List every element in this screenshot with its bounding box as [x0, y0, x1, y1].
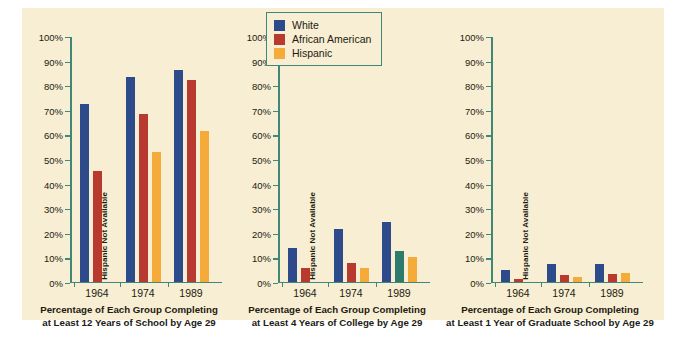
- legend-label: Hispanic: [292, 46, 332, 60]
- y-axis-tick-label: 0%: [257, 278, 271, 289]
- legend-swatch-icon: [274, 34, 285, 45]
- legend-label: African American: [292, 32, 371, 46]
- chart-caption-line1: Percentage of Each Group Completing: [230, 304, 444, 317]
- y-axis-tick-label: 10%: [44, 253, 63, 264]
- y-axis-tick-label: 40%: [465, 179, 484, 190]
- bar: [152, 152, 161, 281]
- y-axis-tick-label: 20%: [44, 228, 63, 239]
- y-axis-tick-label: 80%: [44, 81, 63, 92]
- legend-swatch-icon: [274, 48, 285, 59]
- x-axis-tick: [589, 283, 590, 287]
- bar: [382, 222, 391, 281]
- y-axis-tick-label: 20%: [465, 228, 484, 239]
- y-axis-tick: [486, 185, 491, 186]
- x-axis-category-label: 1989: [376, 287, 422, 299]
- bar: [621, 273, 630, 282]
- y-axis-tick: [65, 234, 70, 235]
- x-axis-line: [278, 282, 430, 284]
- bar: [187, 80, 196, 282]
- y-axis-tick-label: 50%: [465, 155, 484, 166]
- bar: [608, 274, 617, 281]
- hispanic-not-available-note: Hispanic Not Available: [521, 192, 530, 280]
- y-axis-tick: [486, 160, 491, 161]
- bar: [174, 70, 183, 282]
- plot-area: 100%90%80%70%60%50%40%30%20%10%0%Hispani…: [278, 37, 430, 283]
- x-axis-category-label: 1964: [282, 287, 328, 299]
- y-axis-line: [278, 37, 280, 283]
- x-axis-category-label: 1964: [74, 287, 120, 299]
- y-axis-tick: [273, 209, 278, 210]
- y-axis-tick-label: 30%: [44, 204, 63, 215]
- y-axis-tick-label: 40%: [252, 179, 271, 190]
- y-axis-tick-label: 0%: [49, 278, 63, 289]
- bar-stack: [80, 36, 102, 282]
- y-axis-tick-label: 70%: [465, 105, 484, 116]
- x-axis-tick: [541, 283, 542, 287]
- hispanic-not-available-note: Hispanic Not Available: [100, 192, 109, 280]
- bar: [408, 257, 417, 282]
- y-axis-tick: [273, 283, 278, 284]
- x-axis-tick: [328, 283, 329, 287]
- y-axis-tick: [65, 62, 70, 63]
- hispanic-not-available-note: Hispanic Not Available: [308, 192, 317, 280]
- y-axis-tick: [486, 209, 491, 210]
- y-axis-tick-label: 80%: [465, 81, 484, 92]
- bar: [395, 251, 404, 282]
- y-axis-tick-label: 30%: [465, 204, 484, 215]
- y-axis-tick: [65, 283, 70, 284]
- y-axis-tick-label: 70%: [44, 105, 63, 116]
- legend-swatch-icon: [274, 20, 285, 31]
- y-axis-tick-label: 20%: [252, 228, 271, 239]
- y-axis-tick: [273, 185, 278, 186]
- legend: WhiteAfrican AmericanHispanic: [266, 12, 382, 66]
- y-axis-line: [70, 37, 72, 283]
- bar: [573, 277, 582, 282]
- chart-caption: Percentage of Each Group Completingat Le…: [443, 304, 657, 329]
- y-axis-tick-label: 60%: [44, 130, 63, 141]
- legend-entry: Hispanic: [274, 46, 371, 60]
- x-axis-line: [491, 282, 643, 284]
- bar-stack: [174, 36, 209, 282]
- legend-entry: African American: [274, 32, 371, 46]
- x-axis-category-label: 1964: [495, 287, 541, 299]
- bar-stack: [126, 36, 161, 282]
- chart-caption-line2: at Least 12 Years of School by Age 29: [22, 317, 236, 330]
- bar: [139, 114, 148, 281]
- y-axis-tick-label: 90%: [44, 56, 63, 67]
- y-axis-tick-label: 30%: [252, 204, 271, 215]
- bar-stack: [547, 36, 582, 282]
- y-axis-tick: [486, 258, 491, 259]
- bar-stack: [382, 36, 417, 282]
- x-axis-category-label: 1989: [168, 287, 214, 299]
- chart-caption-line1: Percentage of Each Group Completing: [443, 304, 657, 317]
- x-axis-line: [70, 282, 222, 284]
- y-axis-tick: [273, 86, 278, 87]
- y-axis-tick-label: 10%: [465, 253, 484, 264]
- y-axis-tick-label: 10%: [252, 253, 271, 264]
- x-axis-category-label: 1974: [328, 287, 374, 299]
- x-axis-tick: [282, 283, 283, 287]
- y-axis-tick: [65, 160, 70, 161]
- y-axis-tick: [486, 234, 491, 235]
- plot-area: 100%90%80%70%60%50%40%30%20%10%0%Hispani…: [70, 37, 222, 283]
- y-axis-tick: [273, 111, 278, 112]
- x-axis-tick: [74, 283, 75, 287]
- y-axis-tick: [65, 37, 70, 38]
- y-axis-tick-label: 90%: [465, 56, 484, 67]
- bar: [560, 275, 569, 281]
- bar-stack: [501, 36, 523, 282]
- y-axis-tick: [273, 160, 278, 161]
- y-axis-tick-label: 0%: [470, 278, 484, 289]
- bar: [547, 264, 556, 281]
- chart-1-year-graduate-school: 196419741989100%90%80%70%60%50%40%30%20%…: [443, 8, 657, 320]
- y-axis-tick: [65, 258, 70, 259]
- x-axis-category-label: 1989: [589, 287, 635, 299]
- legend-entry: White: [274, 18, 371, 32]
- bar: [80, 104, 89, 281]
- chart-caption: Percentage of Each Group Completingat Le…: [22, 304, 236, 329]
- y-axis-tick-label: 70%: [252, 105, 271, 116]
- plot-area: 100%90%80%70%60%50%40%30%20%10%0%Hispani…: [491, 37, 643, 283]
- bar: [347, 263, 356, 281]
- chart-caption: Percentage of Each Group Completingat Le…: [230, 304, 444, 329]
- x-axis-tick: [495, 283, 496, 287]
